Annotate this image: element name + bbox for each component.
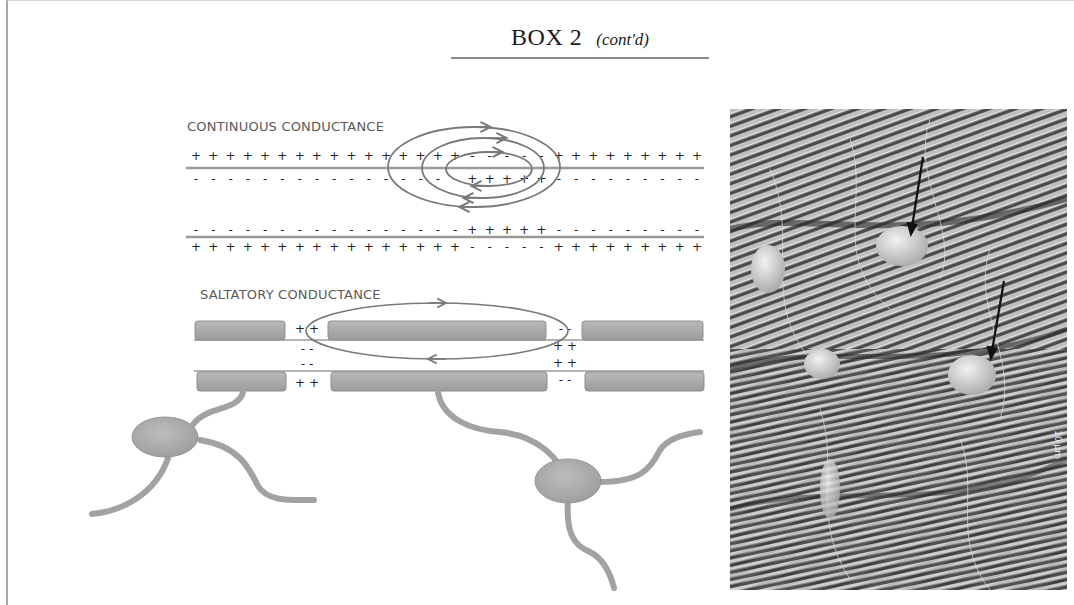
continuous-label: CONTINUOUS CONDUCTANCE [187, 119, 384, 134]
myelin-sheath-top-3 [582, 321, 703, 340]
conduction-diagram: CONTINUOUS CONDUCTANCE ++++++++++++++++-… [0, 0, 720, 605]
sem-micrograph: 10 µm [730, 109, 1067, 590]
node1-bottom-inside: - - [301, 357, 313, 371]
charges-inside-b: ----------------+++++--------- [194, 223, 699, 237]
node1-bottom-outside: + + [295, 376, 319, 390]
node2-top-inside: + + [553, 339, 577, 353]
process [192, 392, 243, 426]
myelin-sheath-bottom-2 [331, 372, 547, 391]
process [92, 452, 170, 514]
oligodendrocyte-cell-1 [876, 226, 928, 266]
oligodendrocyte-cell-5 [820, 459, 840, 519]
oligodendrocyte-cell-2 [751, 245, 785, 293]
myelin-sheath-bottom-1 [197, 372, 286, 391]
node2-bottom-inside: + + [553, 356, 577, 370]
myelin-sheath-top-1 [195, 321, 285, 340]
oligodendrocyte-right [438, 392, 700, 588]
node2-bottom-outside: - - [559, 373, 571, 387]
oligodendrocyte-body [132, 417, 198, 457]
charges-outside-a: ++++++++++++++++-----+++++++++ [191, 149, 702, 163]
oligodendrocyte-cell-3 [948, 355, 996, 395]
charges-outside-b: ++++++++++++++++-----+++++++++ [191, 240, 702, 254]
process [598, 432, 700, 482]
oligodendrocyte-body [535, 459, 601, 503]
myelin-sheath-top-2 [328, 321, 546, 340]
oligodendrocyte-cell-4 [804, 349, 840, 379]
continuous-membrane-a: ++++++++++++++++-----+++++++++ ---------… [186, 149, 704, 186]
saltatory-axon: + + - - - - + + - - + + + + - - [194, 303, 704, 391]
continuous-membrane-b: ----------------+++++--------- +++++++++… [186, 223, 704, 254]
process [568, 500, 614, 588]
myelin-sheath-bottom-3 [585, 372, 704, 391]
node1-top-inside: - - [301, 342, 313, 356]
scale-bar-label: 10 µm [1053, 430, 1063, 459]
process [200, 440, 314, 500]
micrograph-image [730, 109, 1067, 590]
saltatory-label: SALTATORY CONDUCTANCE [200, 287, 381, 302]
oligodendrocyte-left [92, 392, 314, 514]
charges-inside-a: ----------------+++++--------- [194, 172, 699, 186]
